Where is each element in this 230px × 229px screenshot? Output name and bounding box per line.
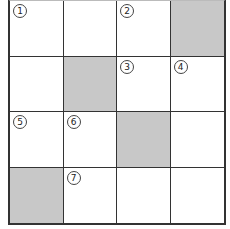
clue-number: 1	[13, 4, 27, 18]
grid-cell[interactable]: 5	[10, 112, 64, 168]
grid-cell[interactable]	[171, 168, 225, 224]
clue-number: 7	[67, 171, 81, 185]
grid-cell[interactable]	[10, 57, 64, 113]
shaded-cell	[117, 112, 171, 168]
grid-cell[interactable]	[171, 112, 225, 168]
grid-cell[interactable]: 1	[10, 1, 64, 57]
clue-number: 6	[67, 115, 81, 129]
grid-cell[interactable]	[117, 168, 171, 224]
grid-cell[interactable]: 6	[64, 112, 118, 168]
grid-cell[interactable]: 3	[117, 57, 171, 113]
clue-number: 3	[120, 60, 134, 74]
clue-number: 4	[174, 60, 188, 74]
shaded-cell	[10, 168, 64, 224]
grid-cell[interactable]: 7	[64, 168, 118, 224]
crossword-grid: 1234567	[8, 0, 226, 225]
grid-cell[interactable]: 4	[171, 57, 225, 113]
shaded-cell	[64, 57, 118, 113]
grid-cell[interactable]: 2	[117, 1, 171, 57]
grid-cell[interactable]	[64, 1, 118, 57]
clue-number: 2	[120, 4, 134, 18]
clue-number: 5	[13, 115, 27, 129]
shaded-cell	[171, 1, 225, 57]
